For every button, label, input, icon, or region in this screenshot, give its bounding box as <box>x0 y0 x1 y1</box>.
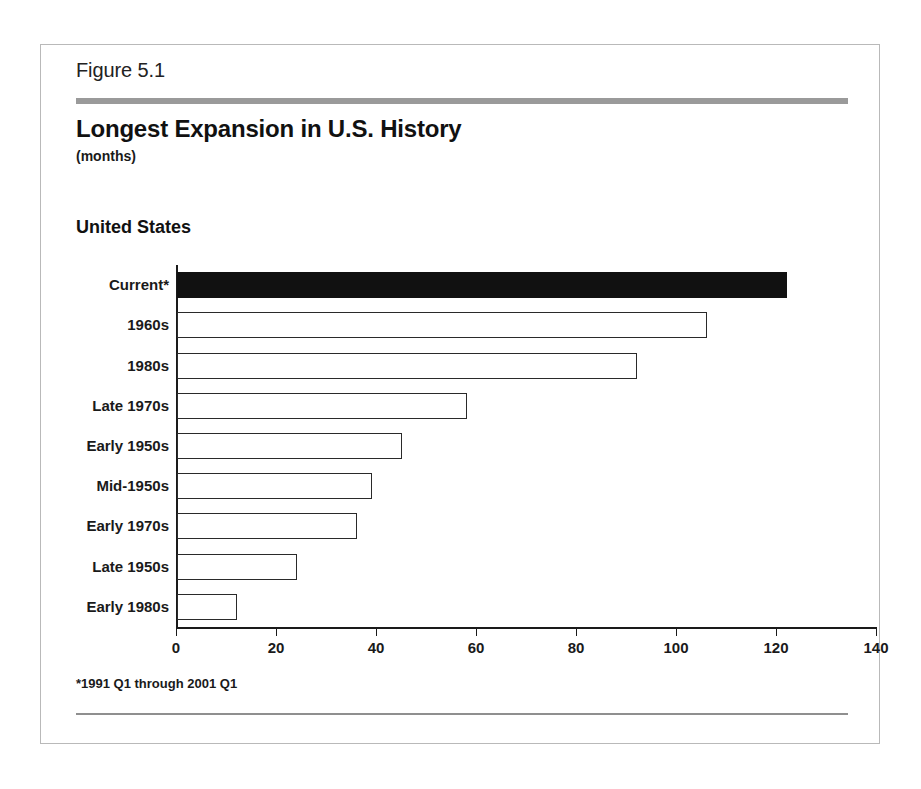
bar-mid-1950s <box>177 473 372 499</box>
region-label: United States <box>76 217 191 238</box>
category-axis-label: Late 1970s <box>41 398 169 413</box>
bar-1980s <box>177 353 637 379</box>
category-axis-labels: Current*1960s1980sLate 1970sEarly 1950sM… <box>41 265 169 627</box>
figure-frame: Figure 5.1 Longest Expansion in U.S. His… <box>40 44 880 744</box>
bar-early-1970s <box>177 513 357 539</box>
category-axis-label: Early 1950s <box>41 438 169 453</box>
category-axis-label: Current* <box>41 277 169 292</box>
value-axis-tick <box>576 627 577 636</box>
header-divider <box>76 98 848 104</box>
value-axis-tick-label: 60 <box>468 639 485 656</box>
value-axis-tick-label: 140 <box>863 639 888 656</box>
value-axis-tick-label: 20 <box>268 639 285 656</box>
figure-number: Figure 5.1 <box>76 59 165 82</box>
bar-current <box>177 272 787 298</box>
category-axis-label: 1960s <box>41 317 169 332</box>
category-axis-label: Mid-1950s <box>41 478 169 493</box>
value-axis: 020406080100120140 <box>176 627 876 673</box>
category-axis-label: Early 1970s <box>41 518 169 533</box>
value-axis-tick-label: 120 <box>763 639 788 656</box>
value-axis-tick-label: 80 <box>568 639 585 656</box>
footnote: *1991 Q1 through 2001 Q1 <box>76 676 237 691</box>
value-axis-tick <box>776 627 777 636</box>
category-axis-label: Early 1980s <box>41 599 169 614</box>
value-axis-tick-label: 0 <box>172 639 180 656</box>
chart-plot-area: Current*1960s1980sLate 1970sEarly 1950sM… <box>41 265 881 665</box>
bar-1960s <box>177 312 707 338</box>
value-axis-tick <box>676 627 677 636</box>
footer-divider <box>76 713 848 715</box>
category-axis-label: 1980s <box>41 358 169 373</box>
value-axis-tick <box>176 627 177 636</box>
value-axis-tick-label: 40 <box>368 639 385 656</box>
bar-late-1970s <box>177 393 467 419</box>
chart-title: Longest Expansion in U.S. History <box>76 115 461 143</box>
value-axis-tick <box>376 627 377 636</box>
bars-layer <box>176 265 876 627</box>
value-axis-tick-label: 100 <box>663 639 688 656</box>
value-axis-tick <box>476 627 477 636</box>
chart-units-label: (months) <box>76 148 136 164</box>
value-axis-tick <box>276 627 277 636</box>
bar-early-1950s <box>177 433 402 459</box>
value-axis-baseline <box>176 627 876 629</box>
bar-early-1980s <box>177 594 237 620</box>
value-axis-tick <box>876 627 877 636</box>
category-axis-label: Late 1950s <box>41 559 169 574</box>
bar-late-1950s <box>177 554 297 580</box>
